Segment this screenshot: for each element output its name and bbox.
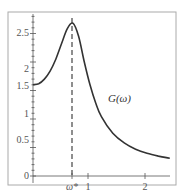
y-tick-2: 2	[24, 63, 29, 74]
x-tick-omega-star: ω*	[66, 181, 78, 192]
y-tick-2.5: 2.5	[17, 27, 30, 38]
x-tick-1: 1	[86, 181, 91, 192]
y-tick-1: 1	[24, 108, 29, 119]
y-axis	[30, 14, 36, 183]
y-tick-0.5: 0.5	[17, 134, 30, 145]
y-tick-0: 0	[24, 170, 29, 181]
x-axis	[33, 173, 170, 179]
curve-label: G(ω)	[108, 92, 131, 105]
chart: 0 0.5 1 1.5 2 2.5 ω* 1 2 G(ω)	[0, 0, 186, 194]
g-omega-curve	[33, 23, 170, 158]
x-tick-2: 2	[143, 181, 148, 192]
y-tick-1.5: 1.5	[17, 80, 30, 91]
